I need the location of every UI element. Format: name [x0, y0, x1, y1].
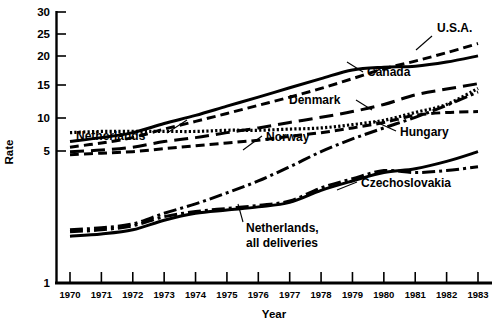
x-tick-label-1972: 1972 — [122, 289, 143, 300]
x-tick-label-1981: 1981 — [405, 289, 427, 300]
chart-figure: 30 25 20 15 10 5 1 Rate 1970197119721973… — [0, 0, 504, 324]
x-tick-label-1975: 1975 — [216, 289, 238, 300]
y-tick-label-1: 1 — [44, 277, 51, 289]
x-tick-label-1971: 1971 — [91, 289, 113, 300]
series-label-hungary: Hungary — [400, 125, 449, 139]
series-label-norway: Norway — [266, 130, 310, 144]
leader-norway — [243, 136, 262, 150]
x-tick-label-1976: 1976 — [248, 289, 269, 300]
leader-usa — [416, 36, 432, 50]
x-axis-title: Year — [262, 308, 287, 320]
x-tick-label-1973: 1973 — [154, 289, 175, 300]
series-label-netherlands-all-1: Netherlands, — [246, 221, 319, 235]
y-tick-label-15: 15 — [37, 79, 50, 91]
x-tick-label-1974: 1974 — [185, 289, 207, 300]
x-tick-label-1979: 1979 — [342, 289, 363, 300]
x-axis-tick-labels: 1970197119721973197419751976197719781979… — [59, 289, 488, 300]
series-label-czechoslovakia: Czechoslovakia — [361, 176, 451, 190]
y-tick-label-5: 5 — [44, 145, 51, 157]
x-tick-label-1982: 1982 — [436, 289, 457, 300]
y-tick-label-10: 10 — [37, 112, 50, 124]
series-label-canada: Canada — [367, 65, 411, 79]
y-tick-label-20: 20 — [37, 50, 50, 62]
y-tick-label-25: 25 — [37, 28, 50, 40]
x-tick-label-1983: 1983 — [467, 289, 488, 300]
chart-plot-area: 30 25 20 15 10 5 1 Rate 1970197119721973… — [0, 0, 504, 324]
series-label-usa: U.S.A. — [437, 21, 472, 35]
x-axis-ticks — [70, 272, 478, 283]
x-tick-label-1970: 1970 — [59, 289, 80, 300]
series-label-netherlands-all-2: all deliveries — [246, 236, 318, 250]
y-tick-label-30: 30 — [37, 6, 50, 18]
y-axis-title: Rate — [3, 140, 15, 165]
x-tick-label-1978: 1978 — [311, 289, 332, 300]
series-label-denmark: Denmark — [289, 93, 341, 107]
x-tick-label-1980: 1980 — [373, 289, 394, 300]
series-label-netherlands: Netherlands — [76, 129, 146, 143]
x-tick-label-1977: 1977 — [279, 289, 300, 300]
